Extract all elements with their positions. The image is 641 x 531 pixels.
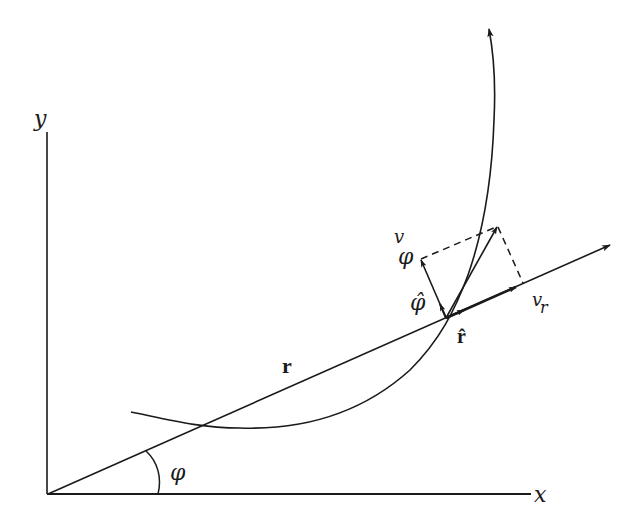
dashed-projection-top xyxy=(421,227,496,259)
x-axis-label: x xyxy=(534,484,546,506)
angle-arc xyxy=(146,451,160,494)
v-r-label-sub: r xyxy=(540,300,548,316)
v-phi-label-sub: φ xyxy=(398,246,413,268)
y-axis-label: y xyxy=(34,108,46,130)
polar-velocity-diagram: y x φ r r̂ φ̂ v φ v r xyxy=(0,0,641,531)
angle-label: φ xyxy=(170,462,185,484)
radial-line xyxy=(48,245,610,494)
unit-vector-phi xyxy=(440,304,446,318)
velocity-vector xyxy=(446,227,497,318)
unit-phi-label: φ̂ xyxy=(410,292,425,314)
dashed-projection-right xyxy=(498,227,523,283)
trajectory-curve xyxy=(131,29,495,428)
diagram-graphics xyxy=(0,0,641,531)
unit-r-label: r̂ xyxy=(457,326,466,346)
position-vector-label: r xyxy=(282,355,292,377)
